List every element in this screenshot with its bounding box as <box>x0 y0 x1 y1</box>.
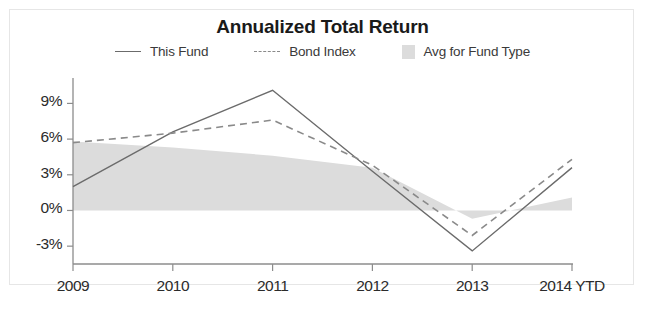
x-axis-tick-label: 2013 <box>417 277 527 295</box>
y-axis-tick-label: 3% <box>0 164 62 182</box>
y-axis-tick-label: 0% <box>0 199 62 217</box>
x-axis-tick-label: 2014 YTD <box>517 277 627 295</box>
y-axis-tick-label: 6% <box>0 128 62 146</box>
x-axis-tick-label: 2010 <box>118 277 228 295</box>
avg-for-fund-type-area-path <box>73 141 572 218</box>
x-axis-tick-label: 2011 <box>218 277 328 295</box>
y-axis-tick-label: -3% <box>0 235 62 253</box>
annualized-total-return-chart: Annualized Total Return This Fund Bond I… <box>0 0 645 331</box>
x-axis-tick-label: 2009 <box>18 277 128 295</box>
x-axis-tick-label: 2012 <box>317 277 427 295</box>
y-axis-tick-label: 9% <box>0 92 62 110</box>
avg-for-fund-type-area <box>73 141 572 218</box>
